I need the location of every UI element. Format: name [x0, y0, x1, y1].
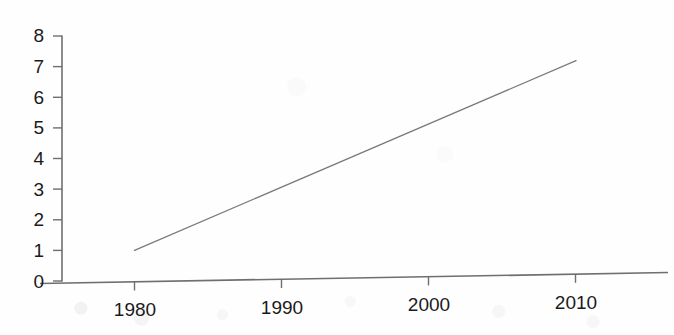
line-plot: [0, 0, 674, 335]
x-tick-label-1980: 1980: [100, 300, 170, 319]
y-tick-label-7: 7: [18, 57, 44, 76]
y-tick-label-2: 2: [18, 210, 44, 229]
y-tick-label-3: 3: [18, 180, 44, 199]
x-tick-label-1990: 1990: [247, 298, 317, 317]
y-tick-label-6: 6: [18, 88, 44, 107]
chart-figure: 8 7 6 5 4 3 2 1 0 1980 1990 2000 2010: [0, 0, 674, 335]
y-tick-label-4: 4: [18, 149, 44, 168]
y-tick-label-8: 8: [18, 26, 44, 45]
x-tick-label-2000: 2000: [394, 295, 464, 314]
x-tick-label-2010: 2010: [541, 293, 611, 312]
data-series-trend: [135, 61, 577, 251]
y-tick-label-0: 0: [18, 272, 44, 291]
y-tick-label-1: 1: [18, 241, 44, 260]
y-tick-label-5: 5: [18, 118, 44, 137]
